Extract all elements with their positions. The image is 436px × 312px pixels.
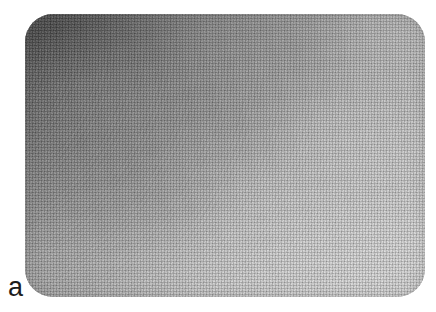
- panel-speckle-overlay: [25, 14, 425, 297]
- panel-label-a: a: [8, 272, 36, 302]
- micrograph-panel: [25, 14, 425, 297]
- figure-root: a: [0, 0, 436, 312]
